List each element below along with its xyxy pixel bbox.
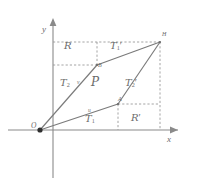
region-label-R-prime: R′ [131,112,141,123]
y-axis-arrowhead [50,18,57,26]
region-label-T2-prime: T2′ [125,77,137,88]
region-base-T2: T [60,77,67,88]
region-base-P: P [91,75,99,89]
edge-B-H [97,42,160,65]
x-axis-label: x [167,134,171,144]
region-base-T2-prime: T [125,77,132,88]
region-base-R-prime: R [131,112,139,123]
edge-A-H [118,42,160,104]
x-axis-arrowhead [170,127,178,134]
point-label-B: B [98,62,102,68]
region-base-T1: T [85,113,92,124]
geometry-figure: y x O A B H u v R T1′ T2 P T2′ T1 R′ [0,0,200,185]
point-H [159,41,161,43]
region-prime-T2-prime: ′ [135,77,137,88]
region-base-R: R [64,40,72,51]
point-O [37,127,42,132]
region-label-T1-prime: T1′ [110,40,122,51]
point-label-H: H [162,31,166,37]
diagram-canvas [0,0,200,185]
vector-label-v: v [77,79,79,85]
region-base-T1-prime: T [110,40,117,51]
y-axis-label: y [42,24,46,34]
axes-group [8,20,178,178]
region-label-T1: T1 [85,113,95,124]
parallelogram-edges [40,42,160,130]
region-label-P: P [91,75,99,90]
region-sub-T1: 1 [92,117,95,124]
region-sub-T2: 2 [67,81,70,88]
region-label-T2: T2 [60,77,70,88]
region-prime-R-prime: ′ [139,112,141,123]
point-label-A: A [118,96,122,102]
point-A [117,103,119,105]
region-prime-T1-prime: ′ [120,40,122,51]
origin-label: O [31,121,36,130]
region-label-R: R [64,40,72,51]
